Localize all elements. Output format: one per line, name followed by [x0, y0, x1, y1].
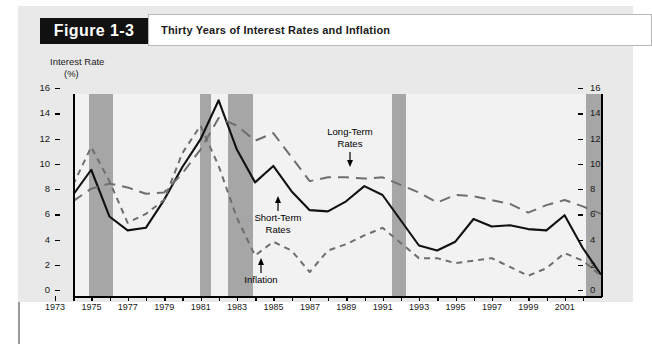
annotation-long-term-line2: Rates	[338, 138, 363, 149]
x-tick-label: 1981	[181, 302, 221, 312]
y-tick-label-left: 2	[28, 259, 50, 270]
x-axis	[73, 296, 602, 298]
figure-title-box: Thirty Years of Interest Rates and Infla…	[148, 14, 652, 46]
y-axis-left	[73, 94, 75, 297]
plot-area	[73, 94, 601, 296]
x-tick-label: 1999	[508, 302, 548, 312]
x-tick	[164, 296, 165, 301]
x-tick-label: 1975	[71, 302, 111, 312]
x-tick	[310, 296, 311, 301]
y-tick-label-left: 16	[28, 82, 50, 93]
y-tick-right	[578, 113, 583, 114]
y-tick-label-right: 2	[590, 259, 612, 270]
x-tick	[110, 296, 111, 301]
figure-title: Thirty Years of Interest Rates and Infla…	[149, 24, 390, 36]
y-tick-label-left: 12	[28, 133, 50, 144]
y-tick-label-right: 8	[590, 183, 612, 194]
x-tick-label: 1977	[108, 302, 148, 312]
y-tick-left	[55, 113, 60, 114]
y-tick-left	[55, 139, 60, 140]
y-tick-left	[55, 265, 60, 266]
y-tick-label-left: 8	[28, 183, 50, 194]
annotation-inflation: Inflation	[231, 274, 291, 286]
y-tick-label-right: 14	[590, 107, 612, 118]
y-tick-right	[578, 189, 583, 190]
x-tick-label: 1983	[217, 302, 257, 312]
x-tick	[182, 296, 183, 301]
y-tick-left	[55, 88, 60, 89]
x-tick	[437, 296, 438, 301]
y-tick-label-left: 4	[28, 234, 50, 245]
y-tick-label-left: 6	[28, 208, 50, 219]
x-tick	[237, 296, 238, 301]
y-tick-right	[578, 265, 583, 266]
x-tick	[365, 296, 366, 301]
x-tick	[583, 296, 584, 301]
y-tick-left	[55, 164, 60, 165]
y-tick-right	[578, 139, 583, 140]
x-tick	[292, 296, 293, 301]
x-tick	[565, 296, 566, 301]
x-tick	[492, 296, 493, 301]
annotation-long-term-rates: Long-Term Rates	[310, 126, 390, 149]
y-tick-right	[578, 290, 583, 291]
x-tick-label: 1989	[326, 302, 366, 312]
y-tick-label-left: 14	[28, 107, 50, 118]
y-tick-label-right: 0	[590, 284, 612, 295]
x-tick-label: 1973	[35, 302, 75, 312]
annotation-short-term-line1: Short-Term	[255, 212, 302, 223]
series-lines	[73, 94, 601, 296]
annotation-long-term-line1: Long-Term	[327, 126, 372, 137]
x-tick-label: 1987	[290, 302, 330, 312]
y-tick-left	[55, 189, 60, 190]
x-tick	[128, 296, 129, 301]
x-tick	[383, 296, 384, 301]
y-tick-right	[578, 240, 583, 241]
y-axis-title: Interest Rate (%)	[50, 56, 104, 80]
y-tick-right	[578, 88, 583, 89]
x-tick	[219, 296, 220, 301]
y-tick-label-right: 10	[590, 158, 612, 169]
x-tick	[474, 296, 475, 301]
y-tick-right	[578, 164, 583, 165]
x-tick	[346, 296, 347, 301]
x-tick-label: 1997	[472, 302, 512, 312]
x-tick	[273, 296, 274, 301]
y-axis-title-line2: (%)	[50, 68, 104, 80]
y-tick-label-right: 4	[590, 234, 612, 245]
y-tick-label-right: 16	[590, 82, 612, 93]
x-tick	[146, 296, 147, 301]
figure-number-badge: Figure 1-3	[40, 18, 148, 44]
annotation-short-term-rates: Short-Term Rates	[238, 212, 318, 235]
y-tick-label-left: 0	[28, 284, 50, 295]
x-tick	[547, 296, 548, 301]
x-tick-label: 1991	[363, 302, 403, 312]
y-tick-left	[55, 290, 60, 291]
figure-container: Figure 1-3 Thirty Years of Interest Rate…	[18, 6, 633, 302]
x-tick	[55, 296, 56, 301]
x-tick	[456, 296, 457, 301]
y-tick-left	[55, 240, 60, 241]
y-tick-label-left: 10	[28, 158, 50, 169]
x-tick	[255, 296, 256, 301]
x-tick	[73, 296, 74, 301]
x-tick	[419, 296, 420, 301]
x-tick	[201, 296, 202, 301]
y-tick-right	[578, 214, 583, 215]
x-tick-label: 2001	[545, 302, 585, 312]
x-tick-label: 1979	[144, 302, 184, 312]
x-tick	[401, 296, 402, 301]
x-tick-label: 1993	[399, 302, 439, 312]
x-tick-label: 1985	[253, 302, 293, 312]
y-axis-title-line1: Interest Rate	[50, 56, 104, 67]
x-tick	[91, 296, 92, 301]
annotation-short-term-line2: Rates	[266, 224, 291, 235]
x-tick-label: 1995	[436, 302, 476, 312]
x-tick	[510, 296, 511, 301]
y-tick-label-right: 12	[590, 133, 612, 144]
x-tick	[528, 296, 529, 301]
y-tick-left	[55, 214, 60, 215]
y-tick-label-right: 6	[590, 208, 612, 219]
x-tick	[328, 296, 329, 301]
